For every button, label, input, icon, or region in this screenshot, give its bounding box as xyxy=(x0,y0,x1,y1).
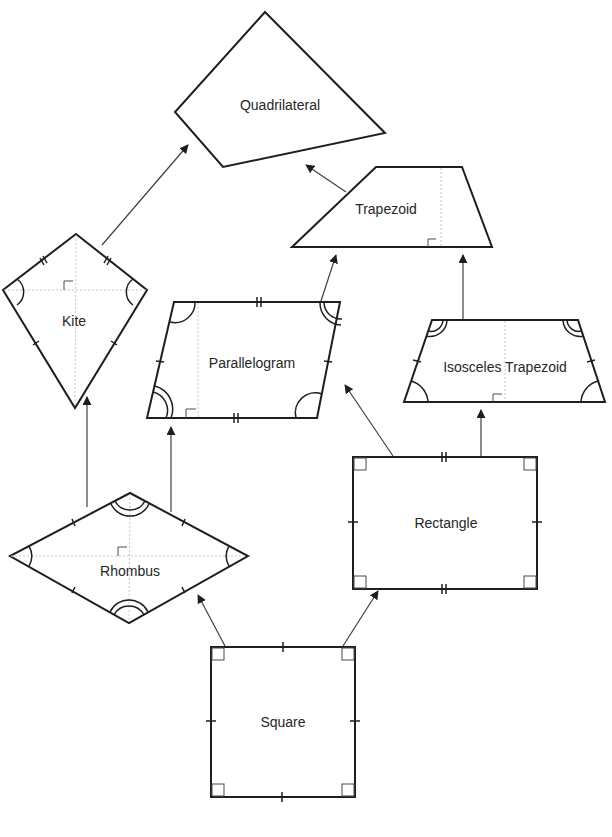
shape-rhombus: Rhombus xyxy=(10,493,248,623)
label-isosceles-trapezoid: Isosceles Trapezoid xyxy=(443,359,567,375)
label-trapezoid: Trapezoid xyxy=(355,201,417,217)
shape-quadrilateral: Quadrilateral xyxy=(175,12,385,167)
arrow-parallelogram-to-trapezoid xyxy=(320,255,336,304)
label-rectangle: Rectangle xyxy=(414,515,477,531)
shape-parallelogram: Parallelogram xyxy=(147,297,342,423)
shape-kite: Kite xyxy=(3,234,147,408)
arrow-square-to-rhombus xyxy=(198,595,225,646)
label-parallelogram: Parallelogram xyxy=(209,355,295,371)
arrow-trapezoid-to-quadrilateral xyxy=(306,165,346,192)
arrow-kite-to-quadrilateral xyxy=(102,145,188,245)
label-quadrilateral: Quadrilateral xyxy=(240,97,320,113)
label-square: Square xyxy=(260,714,305,730)
arrow-square-to-rectangle xyxy=(343,591,378,646)
label-kite: Kite xyxy=(62,313,86,329)
shape-square: Square xyxy=(206,642,360,802)
shape-isosceles-trapezoid: Isosceles Trapezoid xyxy=(404,320,605,402)
quadrilateral-hierarchy-diagram: Quadrilateral Trapezoid Kite xyxy=(0,0,612,837)
shape-trapezoid: Trapezoid xyxy=(292,167,492,247)
label-rhombus: Rhombus xyxy=(100,563,160,579)
shape-rectangle: Rectangle xyxy=(348,452,542,594)
arrow-rectangle-to-parallelogram xyxy=(345,385,393,456)
